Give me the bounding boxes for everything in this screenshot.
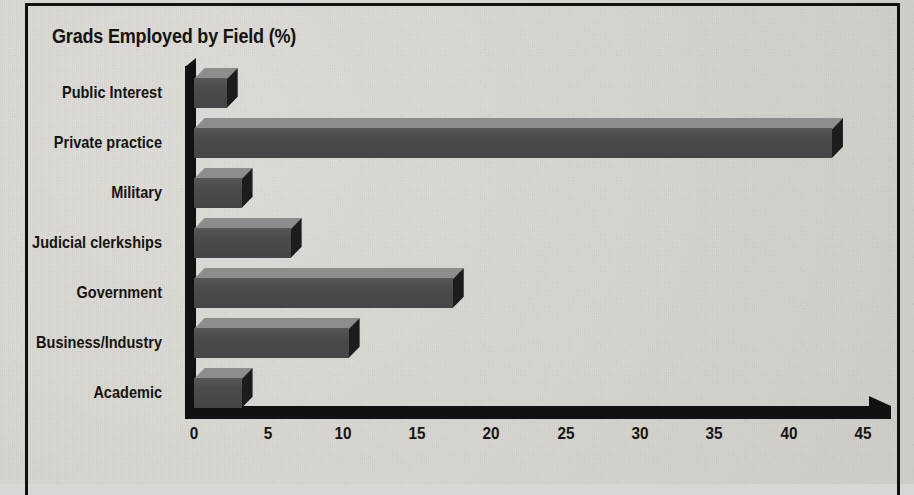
x-axis-arrow-cap [869, 396, 891, 419]
x-tick-label: 0 [176, 424, 212, 444]
bar-front-face [194, 78, 227, 108]
y-axis-label: Government [30, 283, 162, 302]
x-tick-label: 15 [399, 424, 435, 444]
y-axis-label: Military [30, 183, 162, 202]
bar-military [194, 168, 242, 198]
x-tick-label: 25 [548, 424, 584, 444]
bar-business-industry [194, 318, 349, 348]
y-axis-label: Public Interest [30, 83, 162, 102]
x-tick-label: 20 [473, 424, 509, 444]
x-tick-label: 40 [771, 424, 807, 444]
bar-public-interest [194, 68, 227, 98]
bar-front-face [194, 278, 453, 308]
bar-front-face [194, 378, 242, 408]
bar-front-face [194, 178, 242, 208]
bar-front-face [194, 228, 291, 258]
x-tick-label: 45 [845, 424, 881, 444]
y-axis-label: Judicial clerkships [30, 233, 162, 252]
x-axis-baseline [185, 406, 881, 419]
x-tick-label: 10 [325, 424, 361, 444]
bar-judicial-clerkships [194, 218, 291, 248]
y-axis-label: Private practice [30, 133, 162, 152]
x-tick-label: 30 [622, 424, 658, 444]
y-axis-label: Business/Industry [30, 333, 162, 352]
bar-front-face [194, 128, 832, 158]
bar-private-practice [194, 118, 832, 148]
bar-academic [194, 368, 242, 398]
y-axis-label: Academic [30, 383, 162, 402]
bar-front-face [194, 328, 349, 358]
x-tick-label: 5 [250, 424, 286, 444]
x-tick-label: 35 [696, 424, 732, 444]
bar-government [194, 268, 453, 298]
